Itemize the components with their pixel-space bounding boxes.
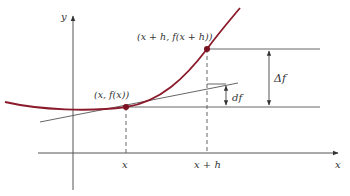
point-x bbox=[123, 104, 129, 110]
point-x-plus-h bbox=[204, 46, 210, 52]
y-axis-label: y bbox=[60, 11, 67, 22]
tick-label-x-plus-h: x + h bbox=[194, 159, 221, 170]
delta-f-arrow: Δf bbox=[269, 51, 288, 105]
point-x-plus-h-label: (x + h, f(x + h)) bbox=[137, 31, 213, 42]
tick-label-x: x bbox=[122, 159, 128, 170]
point-x-label: (x, f(x)) bbox=[94, 89, 129, 100]
differential-diagram: y x Δf df (x, f(x)) (x + h, f(x + h)) x … bbox=[0, 0, 350, 196]
delta-f-label: Δf bbox=[273, 72, 288, 85]
df-arrow: df bbox=[207, 84, 244, 105]
x-axis-label: x bbox=[335, 159, 341, 170]
tangent-line bbox=[40, 83, 238, 122]
df-label: df bbox=[232, 92, 244, 103]
